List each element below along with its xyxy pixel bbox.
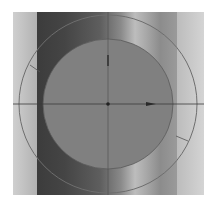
center-dot-icon[interactable] — [106, 102, 110, 106]
ring-tick-right — [176, 136, 188, 141]
ring-tick-left — [30, 65, 40, 72]
rotate-gizmo-icon[interactable] — [0, 0, 216, 208]
